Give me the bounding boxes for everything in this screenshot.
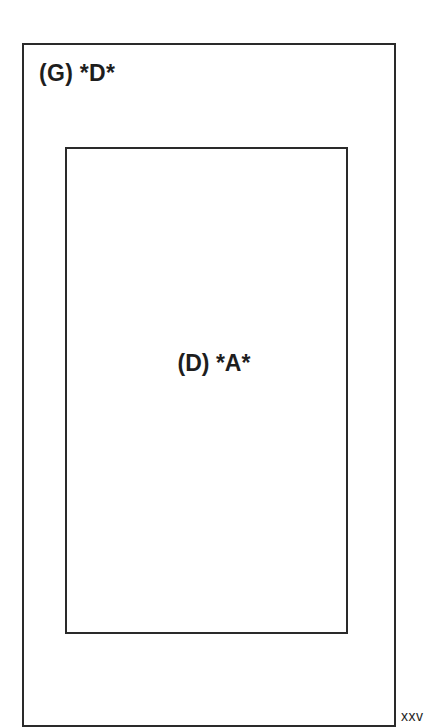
inner-box (65, 147, 348, 634)
inner-box-label: (D) *A* (178, 350, 251, 376)
page-number: xxv (401, 708, 424, 724)
inner-box-label-wrap: (D) *A* (0, 350, 432, 377)
outer-box-label: (G) *D* (39, 60, 115, 87)
